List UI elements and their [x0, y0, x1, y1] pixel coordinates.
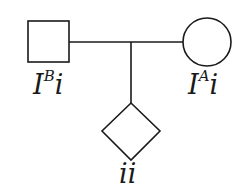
mother-genotype-label: IAi — [188, 71, 218, 98]
father-square — [28, 21, 69, 62]
mother-genotype-allele: A — [199, 67, 210, 85]
father-genotype-base: I — [33, 69, 44, 100]
child-genotype-label: ii — [119, 160, 136, 187]
father-genotype-label: IBi — [33, 71, 63, 98]
father-genotype-allele: B — [44, 67, 55, 85]
father-genotype-tail: i — [55, 69, 64, 100]
child-diamond — [102, 103, 160, 160]
mother-genotype-base: I — [188, 69, 199, 100]
mother-circle — [183, 18, 231, 66]
mother-genotype-tail: i — [210, 69, 219, 100]
